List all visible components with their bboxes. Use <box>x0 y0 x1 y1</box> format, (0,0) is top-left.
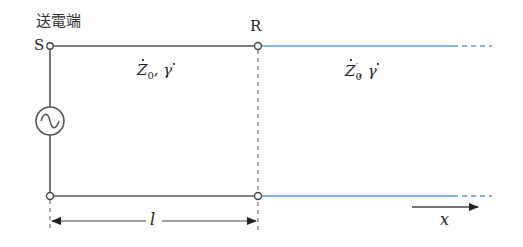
length-label: l <box>150 210 155 229</box>
node-s-label: S <box>34 36 44 54</box>
sending-end-label: 送電端 <box>36 9 81 30</box>
node-s <box>47 43 53 49</box>
node-bottom-right <box>255 193 262 200</box>
line1-propagation-constant: γ <box>163 61 172 79</box>
node-r-label: R <box>250 17 261 35</box>
direction-label: x <box>440 210 449 229</box>
line2-parameters: Z0′, γ′ <box>345 61 379 82</box>
line1-impedance: Z <box>137 61 147 79</box>
line2-propagation-constant: γ <box>368 62 377 80</box>
ac-source-icon <box>36 107 64 135</box>
node-bottom-left <box>47 193 54 200</box>
line1-parameters: Z0, γ <box>137 61 172 81</box>
line2-impedance: Z <box>345 62 355 80</box>
node-r <box>255 43 262 50</box>
